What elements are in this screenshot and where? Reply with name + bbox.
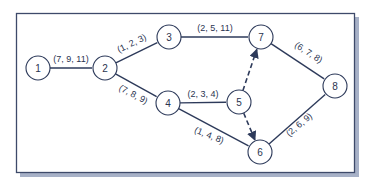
node-8: 8 (323, 74, 347, 98)
edge-label-4-5: (2, 3, 4) (187, 89, 218, 99)
svg-text:4: 4 (165, 98, 171, 109)
edge-label-1-2: (7, 9, 11) (53, 54, 88, 64)
node-1: 1 (26, 56, 50, 80)
edge-label-3-7: (2, 5, 11) (197, 23, 232, 33)
svg-text:3: 3 (166, 32, 172, 43)
svg-text:8: 8 (332, 81, 338, 92)
node-7: 7 (249, 25, 273, 49)
node-4: 4 (156, 91, 180, 115)
node-2: 2 (93, 56, 117, 80)
svg-text:1: 1 (35, 63, 41, 74)
svg-text:2: 2 (102, 63, 108, 74)
node-5: 5 (227, 90, 251, 114)
svg-text:7: 7 (258, 32, 264, 43)
edge-4-5 (180, 102, 226, 103)
network-diagram: (7, 9, 11) (1, 2, 3) (7, 8, 9) (2, 5, 11… (0, 0, 372, 184)
svg-text:6: 6 (257, 147, 263, 158)
svg-text:5: 5 (236, 97, 242, 108)
node-3: 3 (157, 25, 181, 49)
node-6: 6 (248, 140, 272, 164)
